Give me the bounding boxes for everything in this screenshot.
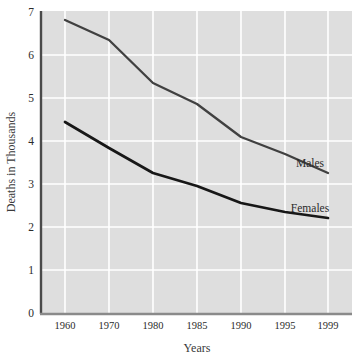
y-tick-label-1: 1 [28, 264, 34, 276]
y-axis-title: Deaths in Thousands [4, 111, 18, 212]
line-chart: 0 1 2 3 4 5 6 7 1960 1970 1980 1985 1990… [0, 0, 361, 361]
y-tick-label-6: 6 [28, 49, 34, 61]
y-tick-labels: 0 1 2 3 4 5 6 7 [28, 6, 34, 319]
series-label-females: Females [291, 202, 330, 214]
x-tick-label-1970: 1970 [99, 320, 120, 331]
x-tick-label-1990: 1990 [231, 320, 252, 331]
x-tick-labels: 1960 1970 1980 1985 1990 1995 1999 [55, 320, 339, 331]
series-label-males: Males [296, 157, 325, 169]
x-tick-label-1995: 1995 [275, 320, 296, 331]
chart-figure: 0 1 2 3 4 5 6 7 1960 1970 1980 1985 1990… [0, 0, 361, 361]
y-tick-label-3: 3 [28, 178, 34, 190]
y-tick-label-4: 4 [28, 135, 34, 147]
y-tick-label-5: 5 [28, 92, 34, 104]
y-tick-label-0: 0 [28, 307, 34, 319]
x-tick-label-1999: 1999 [318, 320, 339, 331]
x-tick-label-1985: 1985 [187, 320, 208, 331]
x-axis-title: Years [184, 341, 211, 355]
x-tick-label-1960: 1960 [55, 320, 76, 331]
y-tick-label-7: 7 [28, 6, 34, 18]
y-tick-label-2: 2 [28, 221, 34, 233]
x-tick-label-1980: 1980 [143, 320, 164, 331]
